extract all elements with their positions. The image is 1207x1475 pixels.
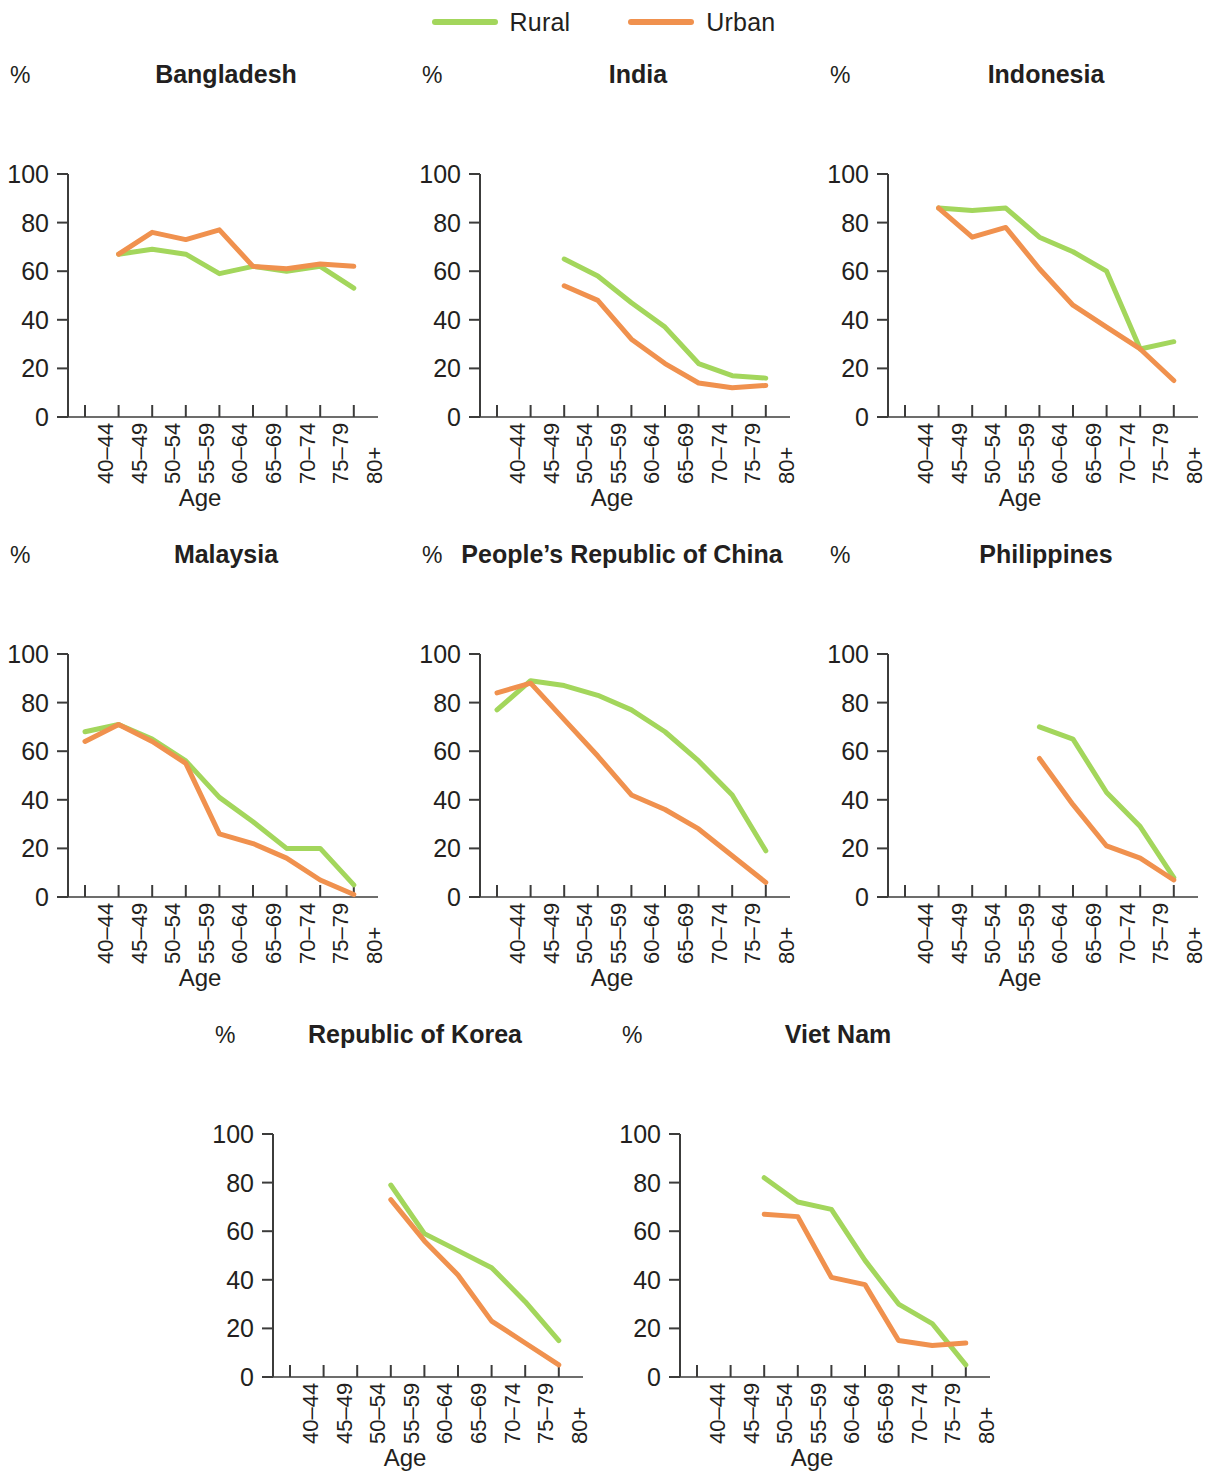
x-axis-tick-labels: 40–4445–4950–5455–5960–6465–6970–7475–79… [205,1332,605,1442]
x-axis-tick-label: 60–64 [432,1383,458,1444]
plot-area: 020406080100 [820,578,1207,898]
x-axis-title: Age [820,484,1207,512]
y-axis-unit-label: % [10,62,30,89]
x-axis-tick-label: 45–49 [127,423,153,484]
x-axis-tick-label: 60–64 [639,423,665,484]
x-axis-tick-label: 75–79 [740,903,766,964]
plot-area: 020406080100 [0,98,400,418]
x-axis-tick-label: 75–79 [328,903,354,964]
y-axis-tick-label: 80 [841,689,869,717]
x-axis-tick-label: 65–69 [261,903,287,964]
series-line-rural [391,1185,559,1341]
x-axis-tick-label: 65–69 [466,1383,492,1444]
x-axis-tick-label: 45–49 [739,1383,765,1444]
legend-entry-rural: Rural [432,8,571,37]
series-line-urban [939,208,1174,381]
y-axis-tick-label: 100 [827,640,869,668]
panel-title: Bangladesh [56,60,396,89]
x-axis-tick-label: 80+ [974,1407,1000,1444]
x-axis-tick-label: 60–64 [227,903,253,964]
y-axis-tick-label: 100 [212,1120,254,1148]
y-axis-tick-label: 100 [827,160,869,188]
x-axis-title: Age [412,964,812,992]
y-axis-tick-label: 40 [226,1266,254,1294]
x-axis-tick-labels: 40–4445–4950–5455–5960–6465–6970–7475–79… [412,372,812,482]
x-axis-tick-label: 55–59 [1014,903,1040,964]
chart-panel: %Philippines02040608010040–4445–4950–545… [820,532,1207,1002]
x-axis-tick-label: 40–44 [505,903,531,964]
y-axis-tick-label: 100 [419,160,461,188]
x-axis-tick-labels: 40–4445–4950–5455–5960–6465–6970–7475–79… [0,372,400,482]
x-axis-tick-label: 55–59 [606,903,632,964]
chart-panel: %Republic of Korea02040608010040–4445–49… [205,1012,605,1475]
y-axis-tick-label: 100 [7,640,49,668]
y-axis-unit-label: % [10,542,30,569]
x-axis-title: Age [820,964,1207,992]
x-axis-tick-label: 80+ [774,447,800,484]
x-axis-tick-label: 75–79 [740,423,766,484]
x-axis-tick-label: 80+ [1182,447,1207,484]
x-axis-tick-label: 50–54 [572,903,598,964]
x-axis-tick-label: 40–44 [913,903,939,964]
y-axis-tick-label: 60 [841,737,869,765]
x-axis-tick-label: 80+ [362,927,388,964]
x-axis-title: Age [612,1444,1012,1472]
x-axis-tick-label: 50–54 [365,1383,391,1444]
y-axis-unit-label: % [830,542,850,569]
x-axis-tick-label: 45–49 [332,1383,358,1444]
x-axis-tick-labels: 40–4445–4950–5455–5960–6465–6970–7475–79… [0,852,400,962]
x-axis-tick-label: 75–79 [940,1383,966,1444]
y-axis-tick-label: 60 [226,1217,254,1245]
line-swatch-urban-icon [628,19,694,25]
chart-panel: %Indonesia02040608010040–4445–4950–5455–… [820,52,1207,522]
y-axis-tick-label: 80 [21,689,49,717]
chart-panel: %Bangladesh02040608010040–4445–4950–5455… [0,52,400,522]
x-axis-tick-label: 60–64 [227,423,253,484]
x-axis-tick-label: 60–64 [839,1383,865,1444]
y-axis-tick-label: 40 [21,306,49,334]
x-axis-tick-label: 40–44 [913,423,939,484]
x-axis-tick-label: 70–74 [295,423,321,484]
x-axis-tick-label: 50–54 [980,423,1006,484]
x-axis-tick-label: 70–74 [1115,903,1141,964]
x-axis-tick-label: 55–59 [194,903,220,964]
x-axis-title: Age [0,964,400,992]
x-axis-tick-labels: 40–4445–4950–5455–5960–6465–6970–7475–79… [412,852,812,962]
x-axis-tick-label: 65–69 [673,903,699,964]
x-axis-title: Age [412,484,812,512]
x-axis-tick-label: 80+ [362,447,388,484]
chart-panel: %People’s Republic of China0204060801004… [412,532,812,1002]
x-axis-tick-label: 75–79 [533,1383,559,1444]
x-axis-tick-label: 55–59 [806,1383,832,1444]
y-axis-tick-label: 60 [633,1217,661,1245]
x-axis-tick-label: 50–54 [572,423,598,484]
y-axis-tick-label: 60 [841,257,869,285]
y-axis-tick-label: 80 [433,209,461,237]
x-axis-tick-label: 55–59 [1014,423,1040,484]
legend-label-rural: Rural [510,8,571,37]
x-axis-tick-label: 80+ [774,927,800,964]
panel-title: Philippines [876,540,1207,569]
x-axis-tick-label: 50–54 [160,903,186,964]
plot-area: 020406080100 [205,1058,605,1378]
y-axis-tick-label: 80 [21,209,49,237]
x-axis-tick-label: 40–44 [505,423,531,484]
y-axis-unit-label: % [622,1022,642,1049]
x-axis-title: Age [0,484,400,512]
x-axis-tick-label: 45–49 [947,423,973,484]
y-axis-tick-label: 40 [21,786,49,814]
x-axis-tick-labels: 40–4445–4950–5455–5960–6465–6970–7475–79… [612,1332,1012,1442]
x-axis-tick-label: 65–69 [1081,423,1107,484]
x-axis-tick-label: 40–44 [298,1383,324,1444]
x-axis-tick-label: 75–79 [328,423,354,484]
y-axis-tick-label: 100 [619,1120,661,1148]
series-line-rural [497,681,766,851]
y-axis-tick-label: 40 [841,786,869,814]
x-axis-tick-label: 80+ [567,1407,593,1444]
x-axis-tick-label: 50–54 [980,903,1006,964]
x-axis-title: Age [205,1444,605,1472]
y-axis-tick-label: 60 [21,257,49,285]
x-axis-tick-labels: 40–4445–4950–5455–5960–6465–6970–7475–79… [820,852,1207,962]
x-axis-tick-labels: 40–4445–4950–5455–5960–6465–6970–7475–79… [820,372,1207,482]
y-axis-tick-label: 40 [433,786,461,814]
